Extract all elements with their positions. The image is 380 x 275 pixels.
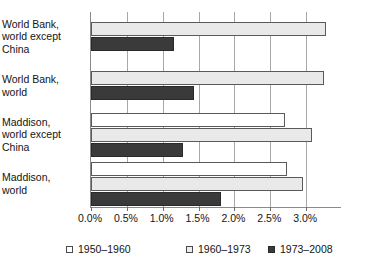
bar-chart: World Bank, world except ChinaWorld Bank… (0, 0, 380, 275)
bar-group (91, 12, 380, 61)
x-axis-tick-labels: 0.0%0.5%1.0%1.5%2.0%2.5%3.0% (90, 212, 341, 228)
legend-swatch-icon (66, 246, 73, 253)
category-label: World Bank, world except China (2, 18, 83, 56)
plot-area (90, 12, 341, 208)
bar (91, 37, 174, 51)
chart-legend: 1950–19601960–19731973–2008 (0, 243, 380, 263)
category-label: World Bank, world (2, 73, 83, 98)
x-tick-label: 0.5% (114, 212, 138, 225)
legend-swatch-icon (186, 246, 193, 253)
x-tick-label: 1.5% (186, 212, 210, 225)
x-tick-label: 2.5% (257, 212, 281, 225)
category-label: Maddison, world except China (2, 116, 83, 154)
bar (91, 192, 221, 206)
bar (91, 143, 183, 157)
bar (91, 71, 324, 85)
legend-label: 1973–2008 (280, 243, 333, 256)
legend-label: 1960–1973 (198, 243, 251, 256)
bar (91, 128, 312, 142)
category-axis: World Bank, world except ChinaWorld Bank… (0, 12, 89, 208)
legend-label: 1950–1960 (78, 243, 131, 256)
bar (91, 22, 326, 36)
bar (91, 162, 287, 176)
legend-item[interactable]: 1960–1973 (186, 243, 251, 256)
x-tick-label: 1.0% (150, 212, 174, 225)
x-tick-label: 0.0% (78, 212, 102, 225)
bar-group (91, 110, 380, 159)
bar (91, 86, 194, 100)
category-label: Maddison, world (2, 171, 83, 196)
legend-item[interactable]: 1950–1960 (66, 243, 131, 256)
bar-group (91, 159, 380, 208)
bar-group (91, 61, 380, 110)
legend-swatch-icon (268, 246, 275, 253)
x-tick-label: 2.0% (221, 212, 245, 225)
legend-item[interactable]: 1973–2008 (268, 243, 333, 256)
x-tick-label: 3.0% (293, 212, 317, 225)
bar (91, 113, 285, 127)
bar (91, 177, 303, 191)
